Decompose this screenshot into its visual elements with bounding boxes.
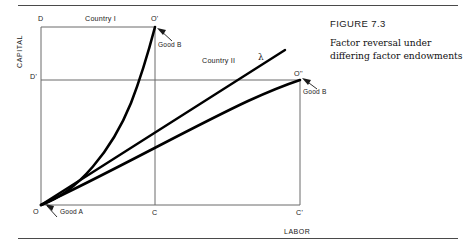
annotation-lambda: λ bbox=[258, 53, 264, 62]
corner-label-d: D bbox=[38, 15, 43, 22]
corner-label-o-prime: O' bbox=[151, 15, 158, 22]
annotation-good-b-country-1: Good B bbox=[158, 42, 182, 49]
annotation-good-a: Good A bbox=[60, 209, 83, 216]
good-a-arrow-icon bbox=[45, 204, 57, 217]
figure-title: Factor reversal under differing factor e… bbox=[330, 36, 470, 63]
axis-label-labor: LABOR bbox=[284, 228, 310, 235]
good-b-curve-country-2 bbox=[41, 80, 300, 205]
good-b-country-1-arrow-icon bbox=[157, 28, 172, 41]
corner-label-d-prime: D' bbox=[30, 73, 37, 80]
axis-label-capital: CAPITAL bbox=[16, 25, 23, 79]
x-tick-label-c: C bbox=[152, 209, 157, 216]
figure-root: CAPITAL LABOR D D' O C C' O' O'' Country… bbox=[0, 0, 476, 249]
x-tick-label-c-prime: C' bbox=[296, 209, 303, 216]
lambda-ray bbox=[41, 50, 285, 205]
figure-caption: FIGURE 7.3 Factor reversal under differi… bbox=[330, 18, 470, 63]
annotation-good-b-country-2: Good B bbox=[303, 89, 327, 96]
corner-label-o-double-prime: O'' bbox=[294, 70, 303, 77]
annotation-country-2: Country II bbox=[202, 57, 235, 64]
annotation-country-1: Country I bbox=[85, 15, 116, 22]
corner-label-origin: O bbox=[33, 208, 39, 215]
figure-number: FIGURE 7.3 bbox=[330, 18, 470, 29]
